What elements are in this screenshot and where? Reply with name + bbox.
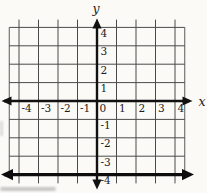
- x-tick-label: -3: [41, 102, 51, 114]
- y-tick-label: -3: [101, 156, 111, 168]
- y-tick-label: 4: [101, 27, 108, 39]
- x-axis-label: x: [198, 94, 205, 109]
- graphed-line-arrow-left: [1, 169, 13, 180]
- x-tick-label: -4: [22, 102, 33, 114]
- y-tick-label: -1: [101, 119, 111, 131]
- x-tick-label: 3: [158, 102, 165, 114]
- y-tick-label: 3: [101, 45, 108, 57]
- y-axis-label: y: [91, 1, 100, 16]
- coordinate-grid-figure: -4-3-2-1012344321-1-2-3-4 x y: [0, 0, 207, 193]
- y-tick-label: 1: [101, 82, 108, 94]
- y-tick-label: -4: [101, 174, 112, 186]
- x-tick-label: 2: [139, 102, 146, 114]
- x-tick-label: 1: [119, 102, 126, 114]
- x-tick-label: -2: [61, 102, 71, 114]
- graphed-line-arrow-right: [182, 169, 194, 180]
- x-tick-label: 4: [178, 102, 185, 114]
- x-tick-label: -1: [80, 102, 90, 114]
- x-axis-arrow-left: [2, 96, 12, 105]
- grid-and-axes-layer: -4-3-2-1012344321-1-2-3-4: [1, 19, 194, 190]
- y-tick-label: -2: [101, 137, 111, 149]
- scan-artifact: [0, 121, 3, 136]
- x-tick-label: 0: [100, 102, 107, 114]
- scan-artifact: [0, 187, 56, 191]
- coordinate-plane-svg: -4-3-2-1012344321-1-2-3-4 x y: [0, 0, 207, 193]
- y-tick-label: 2: [101, 64, 108, 76]
